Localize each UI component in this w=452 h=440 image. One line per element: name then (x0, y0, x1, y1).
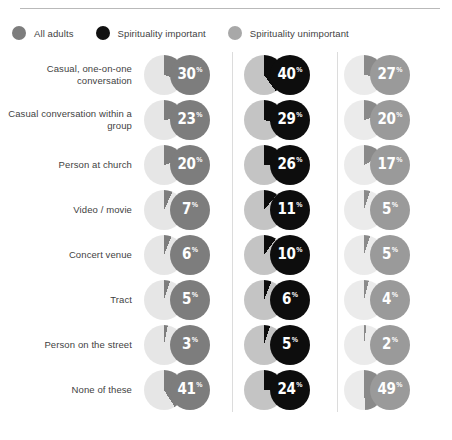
legend-swatch-spirituality-unimportant (228, 26, 242, 40)
value-badge: 5% (370, 235, 410, 275)
value-badge: 40% (270, 55, 310, 95)
pie-unit: 5% (144, 279, 232, 321)
percent-symbol: % (396, 66, 402, 73)
value-badge-number: 23 (178, 112, 196, 127)
value-badge-number: 11 (278, 202, 296, 217)
percent-symbol: % (392, 246, 398, 253)
value-badge-number: 5 (182, 292, 191, 307)
value-badge: 29% (270, 100, 310, 140)
pie-cell: 7% (140, 187, 240, 232)
chart-row: Video / movie7%11%5% (0, 187, 452, 232)
value-badge-number: 24 (278, 382, 296, 397)
value-badge: 5% (270, 325, 310, 365)
row-cells: 20%26%17% (140, 142, 452, 187)
legend-label-all-adults: All adults (34, 28, 74, 39)
chart-legend: All adults Spirituality important Spirit… (12, 26, 371, 40)
percent-symbol: % (292, 336, 298, 343)
value-badge: 49% (370, 370, 410, 410)
value-badge: 6% (270, 280, 310, 320)
row-label: None of these (0, 384, 140, 396)
value-badge-number: 29 (278, 112, 296, 127)
pie-unit: 41% (144, 369, 232, 411)
row-label: Casual, one-on-one conversation (0, 63, 140, 87)
value-badge-number: 5 (382, 247, 391, 262)
row-cells: 6%10%5% (140, 232, 452, 277)
pie-cell: 17% (340, 142, 444, 187)
row-label: Person at church (0, 159, 140, 171)
value-badge-number: 40 (278, 67, 296, 82)
pie-cell: 20% (340, 97, 444, 142)
row-label: Tract (0, 294, 140, 306)
pie-unit: 23% (144, 99, 232, 141)
value-badge-number: 20 (378, 112, 396, 127)
pie-cell: 20% (140, 142, 240, 187)
value-badge-number: 27 (378, 67, 396, 82)
pie-cell: 5% (240, 322, 340, 367)
value-badge: 27% (370, 55, 410, 95)
pie-cell: 2% (340, 322, 444, 367)
pie-cell: 5% (340, 187, 444, 232)
pie-unit: 7% (144, 189, 232, 231)
pie-cell: 6% (140, 232, 240, 277)
row-cells: 23%29%20% (140, 97, 452, 142)
percent-symbol: % (392, 291, 398, 298)
value-badge: 30% (170, 55, 210, 95)
value-badge: 3% (170, 325, 210, 365)
value-badge: 20% (370, 100, 410, 140)
percent-symbol: % (196, 381, 202, 388)
percent-symbol: % (292, 291, 298, 298)
pie-unit: 20% (344, 99, 432, 141)
pie-cell: 30% (140, 52, 240, 97)
percent-symbol: % (192, 336, 198, 343)
percent-symbol: % (296, 246, 302, 253)
percent-symbol: % (296, 111, 302, 118)
row-cells: 30%40%27% (140, 52, 452, 97)
row-cells: 41%24%49% (140, 367, 452, 412)
pie-cell: 10% (240, 232, 340, 277)
chart-row: Person at church20%26%17% (0, 142, 452, 187)
value-badge-number: 49 (378, 382, 396, 397)
pie-unit: 20% (144, 144, 232, 186)
legend-swatch-all-adults (12, 26, 26, 40)
pie-cell: 41% (140, 367, 240, 412)
pie-cell: 49% (340, 367, 444, 412)
percent-symbol: % (192, 291, 198, 298)
value-badge-number: 17 (378, 157, 396, 172)
percent-symbol: % (296, 201, 302, 208)
pie-cell: 24% (240, 367, 340, 412)
pie-unit: 5% (344, 189, 432, 231)
pie-cell: 6% (240, 277, 340, 322)
value-badge-number: 7 (182, 202, 191, 217)
pie-unit: 49% (344, 369, 432, 411)
pie-cell: 29% (240, 97, 340, 142)
pie-cell: 40% (240, 52, 340, 97)
chart-row: Casual conversation within a group23%29%… (0, 97, 452, 142)
row-cells: 5%6%4% (140, 277, 452, 322)
chart-row: Tract5%6%4% (0, 277, 452, 322)
top-divider-rule (20, 8, 440, 9)
pie-unit: 27% (344, 54, 432, 96)
value-badge: 6% (170, 235, 210, 275)
legend-item-spirituality-important: Spirituality important (96, 26, 206, 40)
pie-unit: 2% (344, 324, 432, 366)
value-badge-number: 5 (282, 337, 291, 352)
percent-symbol: % (296, 66, 302, 73)
value-badge: 5% (370, 190, 410, 230)
value-badge-number: 10 (278, 247, 296, 262)
pie-unit: 10% (244, 234, 332, 276)
pie-unit: 6% (144, 234, 232, 276)
value-badge: 10% (270, 235, 310, 275)
pie-cell: 5% (340, 232, 444, 277)
percent-symbol: % (396, 111, 402, 118)
pie-unit: 29% (244, 99, 332, 141)
pie-cell: 23% (140, 97, 240, 142)
value-badge-number: 20 (178, 157, 196, 172)
row-cells: 3%5%2% (140, 322, 452, 367)
value-badge: 11% (270, 190, 310, 230)
value-badge: 20% (170, 145, 210, 185)
pie-unit: 26% (244, 144, 332, 186)
legend-item-all-adults: All adults (12, 26, 74, 40)
row-label: Person on the street (0, 339, 140, 351)
value-badge-number: 4 (382, 292, 391, 307)
pie-cell: 5% (140, 277, 240, 322)
